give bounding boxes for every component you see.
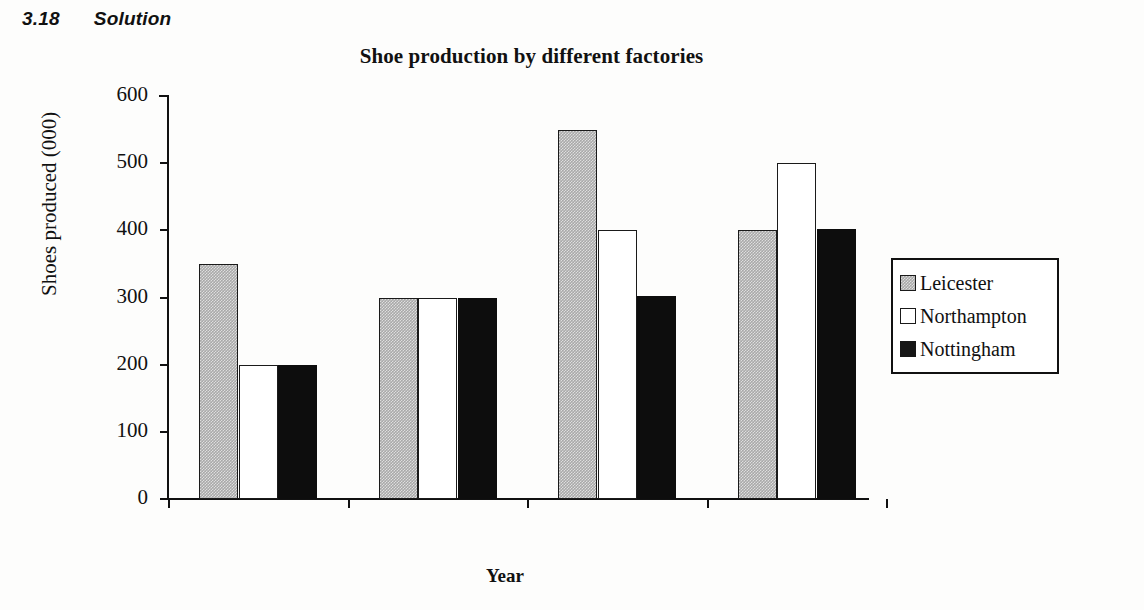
bar-20x3-northampton <box>598 230 637 499</box>
bar-20x3-nottingham <box>637 296 676 499</box>
bar-20x2-leicester <box>379 298 418 500</box>
legend-label: Leicester <box>920 273 993 293</box>
section-number: 3.18 <box>22 8 60 29</box>
y-axis-tick: 300 <box>160 297 168 299</box>
chart-legend: LeicesterNorthamptonNottingham <box>891 258 1059 374</box>
bar-20x2-northampton <box>418 298 457 500</box>
legend-label: Nottingham <box>920 339 1016 359</box>
legend-item-nottingham: Nottingham <box>900 332 1050 365</box>
y-axis-tick: 100 <box>160 431 168 433</box>
x-axis-tick <box>168 499 170 508</box>
x-axis-tick <box>348 499 350 508</box>
bar-20x1-nottingham <box>278 365 317 499</box>
x-axis-tick <box>886 499 888 508</box>
y-axis-title: Shoes produced (000) <box>39 112 60 296</box>
legend-swatch-icon <box>900 308 916 324</box>
y-axis-tick: 500 <box>160 162 168 164</box>
legend-swatch-icon <box>900 341 916 357</box>
y-axis-tick: 400 <box>160 229 168 231</box>
y-axis-tick: 200 <box>160 364 168 366</box>
legend-label: Northampton <box>920 306 1027 326</box>
y-axis-tick-label: 400 <box>117 218 149 239</box>
y-axis-tick-label: 300 <box>117 286 149 307</box>
bar-20x1-leicester <box>199 264 238 499</box>
bar-20x3-leicester <box>558 130 597 499</box>
y-axis-tick-label: 500 <box>117 151 149 172</box>
y-axis-tick-label: 100 <box>117 420 149 441</box>
y-axis-tick-label: 0 <box>138 487 149 508</box>
y-axis-tick: 0 <box>160 498 168 500</box>
legend-swatch-icon <box>900 275 916 291</box>
section-title: Solution <box>94 8 172 29</box>
chart-title: Shoe production by different factories <box>0 44 1063 69</box>
bar-20x4-northampton <box>777 163 816 499</box>
y-axis-tick-label: 600 <box>117 84 149 105</box>
legend-item-leicester: Leicester <box>900 266 1050 299</box>
section-header: 3.18Solution <box>22 8 171 30</box>
bar-20x4-nottingham <box>817 229 856 499</box>
x-axis-tick <box>527 499 529 508</box>
bar-20x2-nottingham <box>458 298 497 500</box>
y-axis-tick-label: 200 <box>117 353 149 374</box>
x-axis-title: Year <box>0 565 1010 587</box>
bar-20x1-northampton <box>239 365 278 499</box>
y-axis-tick: 600 <box>160 95 168 97</box>
bar-20x4-leicester <box>738 230 777 499</box>
x-axis-tick <box>707 499 709 508</box>
plot-area: 010020030040050060020X120X220X320X4 <box>168 96 868 499</box>
legend-item-northampton: Northampton <box>900 299 1050 332</box>
